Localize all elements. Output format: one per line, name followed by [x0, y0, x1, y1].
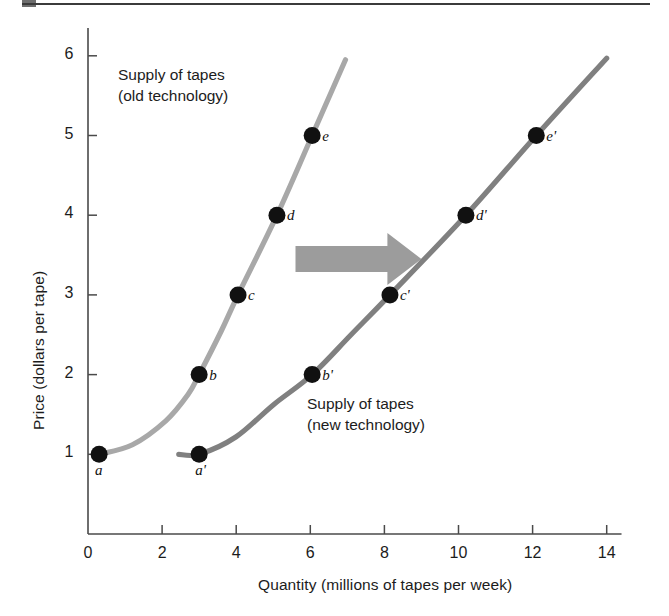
x-tick-label: 12	[518, 544, 548, 562]
x-tick-label: 6	[295, 544, 325, 562]
series-label-line: (new technology)	[307, 414, 425, 435]
data-point-label-d-prime: d'	[476, 207, 487, 224]
y-axis-title: Price (dollars per tape)	[30, 271, 48, 430]
data-point-label-b-prime: b'	[322, 367, 333, 384]
data-point-a-prime	[191, 446, 208, 463]
annotations	[296, 233, 422, 285]
series-label-line: Supply of tapes	[307, 393, 425, 414]
data-point-label-c: c	[248, 287, 255, 304]
data-point-label-b: b	[209, 367, 217, 384]
y-tick-label: 1	[58, 443, 80, 461]
data-point-d	[268, 207, 285, 224]
x-tick-label: 0	[73, 544, 103, 562]
data-point-label-d: d	[287, 207, 295, 224]
x-tick-label: 4	[221, 544, 251, 562]
x-tick-label: 14	[592, 544, 622, 562]
data-point-b-prime	[304, 366, 321, 383]
data-point-label-a: a	[95, 462, 103, 479]
series-label-new-technology: Supply of tapes(new technology)	[307, 393, 425, 436]
data-point-label-c-prime: c'	[400, 287, 410, 304]
shift-arrow-icon	[296, 233, 422, 285]
x-axis-title: Quantity (millions of tapes per week)	[258, 576, 512, 594]
data-point-e	[304, 127, 321, 144]
data-point-label-a-prime: a'	[195, 462, 206, 479]
data-point-label-e-prime: e'	[546, 128, 556, 145]
data-point-b	[191, 366, 208, 383]
data-point-c	[230, 286, 247, 303]
plot-area	[0, 0, 669, 616]
x-tick-label: 2	[147, 544, 177, 562]
x-tick-label: 8	[369, 544, 399, 562]
data-point-label-e: e	[322, 128, 329, 145]
supply-curve-figure: 12345602468101214 Price (dollars per tap…	[0, 0, 669, 616]
data-point-e-prime	[528, 127, 545, 144]
y-tick-label: 2	[58, 364, 80, 382]
y-tick-label: 5	[58, 125, 80, 143]
x-tick-label: 10	[444, 544, 474, 562]
data-point-c-prime	[381, 286, 398, 303]
y-tick-label: 6	[58, 45, 80, 63]
series-label-line: (old technology)	[118, 85, 228, 106]
series-label-old-technology: Supply of tapes(old technology)	[118, 64, 228, 107]
series-label-line: Supply of tapes	[118, 64, 228, 85]
y-tick-label: 3	[58, 284, 80, 302]
data-point-a	[91, 446, 108, 463]
y-tick-label: 4	[58, 204, 80, 222]
data-point-d-prime	[457, 207, 474, 224]
